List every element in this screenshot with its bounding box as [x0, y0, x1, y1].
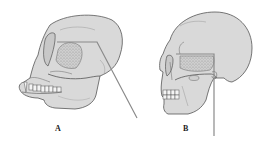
skull-b-teeth	[163, 90, 179, 99]
panel-label-b: B	[183, 125, 188, 133]
skull-comparison-figure: A B	[0, 0, 268, 149]
panel-label-a: A	[55, 125, 61, 133]
skull-a	[19, 15, 137, 118]
skull-b	[160, 12, 252, 136]
skull-b-temporal-fossa	[180, 56, 214, 71]
